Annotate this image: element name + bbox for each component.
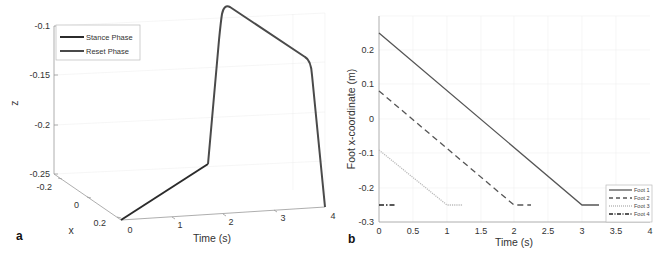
stance-phase-line (121, 164, 208, 220)
legend-a: Stance Phase Reset Phase (56, 25, 140, 60)
b-x-tick-2: 1 (444, 226, 449, 236)
foot3-line (379, 150, 463, 205)
b-x-axis-label: Time (s) (495, 236, 533, 248)
legend-foot3-label: Foot 3 (634, 203, 650, 209)
panel-a-label: a (16, 229, 23, 243)
b-y-axis-label: Foot x-coordinate (m) (345, 69, 357, 169)
z-tick-3: -0.25 (29, 169, 50, 179)
b-x-tick-8: 4 (647, 226, 652, 236)
reset-phase-line (208, 6, 325, 207)
b-y-tick-2: 0 (369, 114, 374, 124)
time-tick-0: 0 (127, 225, 132, 235)
legend-foot2-label: Foot 2 (634, 195, 650, 201)
x-tick-1: 0 (74, 200, 79, 210)
b-x-tick-6: 3 (579, 226, 584, 236)
time-tick-3: 3 (280, 213, 285, 223)
b-y-tick-1: 0.1 (361, 79, 374, 89)
time-tick-1: 1 (177, 220, 182, 230)
b-x-tick-4: 2 (511, 226, 516, 236)
x-tick-2: 0.2 (93, 218, 106, 228)
b-y-tick-3: -0.1 (358, 148, 374, 158)
legend-reset-label: Reset Phase (86, 47, 129, 56)
b-x-tick-7: 3.5 (610, 226, 623, 236)
x-axis-ticks (58, 178, 121, 218)
z-tick-0: -0.1 (34, 21, 50, 31)
b-x-tick-3: 1.5 (475, 226, 488, 236)
b-x-tick-1: 0.5 (407, 226, 420, 236)
b-x-tick-0: 0 (376, 226, 381, 236)
b-y-tick-4: -0.2 (358, 183, 374, 193)
time-axis-label: Time (s) (193, 232, 231, 244)
b-y-tick-5: -0.3 (358, 217, 374, 227)
legend-b: Foot 1 Foot 2 Foot 3 Foot 4 (606, 185, 652, 222)
legend-foot1-label: Foot 1 (634, 187, 650, 193)
legend-stance-label: Stance Phase (86, 33, 133, 42)
z-axis-label: z (8, 100, 20, 105)
panel-b-label: b (348, 232, 355, 246)
panel-a: -0.1 -0.15 -0.2 -0.25 z -0.2 0 0.2 x 0 1… (8, 6, 336, 244)
b-y-tick-0: 0.2 (361, 45, 374, 55)
figure: -0.1 -0.15 -0.2 -0.25 z -0.2 0 0.2 x 0 1… (0, 0, 671, 258)
time-axis-line (121, 207, 325, 220)
panel-b: 0.2 0.1 0 -0.1 -0.2 -0.3 Foot x-coordina… (345, 16, 653, 248)
z-tick-1: -0.15 (29, 70, 50, 80)
b-x-tick-5: 2.5 (542, 226, 555, 236)
x-axis-label: x (68, 224, 74, 236)
time-tick-2: 2 (228, 217, 233, 227)
x-tick-0: -0.2 (36, 182, 52, 192)
legend-foot4-label: Foot 4 (634, 211, 650, 217)
time-tick-4: 4 (330, 211, 335, 221)
z-tick-2: -0.2 (34, 120, 50, 130)
